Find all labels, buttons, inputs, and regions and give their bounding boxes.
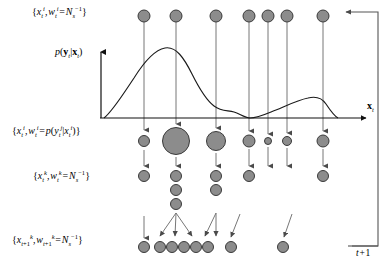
prediction-arrows: [144, 213, 292, 238]
particle: [179, 242, 190, 253]
weighted-particles-row: [139, 128, 330, 155]
likelihood-axes: [100, 52, 366, 118]
particle: [163, 128, 190, 155]
particle: [243, 135, 255, 147]
particle: [171, 171, 182, 182]
particle: [318, 171, 329, 182]
label-likelihood: p(yt|xt): [55, 47, 82, 57]
particle: [243, 10, 255, 22]
particle: [170, 10, 182, 22]
particle: [317, 135, 329, 147]
label-resampled-particles: {xtk, wtk = Ns−1}: [33, 171, 90, 181]
label-x-axis: xt: [367, 101, 374, 111]
particle: [211, 171, 222, 182]
particle: [207, 132, 226, 151]
predicted-particles-row: [139, 242, 289, 253]
label-weighted-particles: {xti, wti = p(ytj|xti)}: [12, 126, 81, 136]
particle: [167, 242, 178, 253]
prior-particles-row: [138, 10, 329, 22]
recursion-feedback-loop: [346, 12, 378, 246]
particle: [171, 199, 182, 210]
particle: [171, 185, 182, 196]
particle: [210, 10, 222, 22]
particle: [138, 10, 150, 22]
particle: [191, 242, 202, 253]
particle: [283, 137, 292, 146]
particle: [139, 171, 150, 182]
particle: [317, 10, 329, 22]
particle: [211, 185, 222, 196]
particle: [262, 10, 274, 22]
particle: [139, 242, 150, 253]
likelihood-curve: [104, 48, 338, 118]
particle: [278, 242, 289, 253]
particle: [203, 242, 214, 253]
label-predicted-particles: {xt+1k, wt+1k = Ns−1}: [12, 235, 83, 245]
particle: [265, 138, 272, 145]
particle: [226, 242, 237, 253]
resampled-particles-row: [139, 171, 329, 210]
prior-to-weighted-lines: [144, 22, 323, 134]
particle-filter-diagram: {xti, wti = Ns−1} p(yt|xt) {xti, wti = p…: [0, 0, 390, 269]
particle: [281, 10, 293, 22]
label-time-next: t + 1: [356, 249, 370, 259]
particle: [139, 136, 150, 147]
label-prior-particles: {xti, wti = Ns−1}: [32, 7, 87, 17]
particle: [244, 171, 255, 182]
particle: [155, 242, 166, 253]
